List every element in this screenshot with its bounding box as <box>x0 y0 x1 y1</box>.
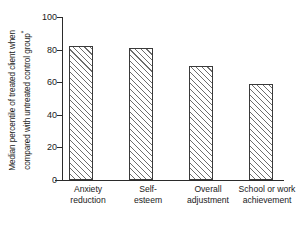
bar-overall-adjustment <box>189 66 213 180</box>
x-axis-tick-labels: Anxiety reduction Self- esteem Overall a… <box>55 184 301 224</box>
x-tick-label-school-or-work-achievement-line-1: School or work <box>233 184 301 195</box>
x-tick-label-anxiety-reduction-line-2: reduction <box>55 195 121 206</box>
x-tick-label-school-or-work-achievement-line-2: achievement <box>233 195 301 206</box>
bar-anxiety-reduction <box>69 46 93 180</box>
bar-self-esteem <box>129 48 153 180</box>
x-tick-label-self-esteem-line-1: Self- <box>115 184 181 195</box>
x-tick-label-self-esteem: Self- esteem <box>115 184 181 206</box>
y-tick-label-100: 100 <box>42 13 57 22</box>
y-tick-mark-100 <box>57 17 62 18</box>
y-axis-label-line-2-text: compared with untreated control group <box>22 33 31 169</box>
y-tick-mark-40 <box>57 115 62 116</box>
y-axis-tick-labels: 0 20 40 60 80 100 <box>32 17 57 180</box>
y-axis-label-footnote-marker: * <box>19 31 26 33</box>
y-tick-label-40: 40 <box>47 110 57 119</box>
bar-series <box>63 17 284 180</box>
y-tick-label-20: 20 <box>47 143 57 152</box>
y-tick-mark-60 <box>57 82 62 83</box>
y-tick-mark-80 <box>57 50 62 51</box>
y-axis-label-line-2: compared with untreated control group* <box>18 30 32 171</box>
x-tick-label-anxiety-reduction-line-1: Anxiety <box>55 184 121 195</box>
bar-school-or-work-achievement <box>249 84 273 180</box>
y-tick-label-60: 60 <box>47 78 57 87</box>
y-tick-label-80: 80 <box>47 45 57 54</box>
x-tick-label-anxiety-reduction: Anxiety reduction <box>55 184 121 206</box>
y-axis-label-line-1: Median percentile of treated client when <box>8 30 17 171</box>
x-tick-label-self-esteem-line-2: esteem <box>115 195 181 206</box>
x-tick-label-school-or-work-achievement: School or work achievement <box>233 184 301 206</box>
plot-area <box>62 17 284 180</box>
x-axis-line <box>55 180 284 181</box>
y-tick-mark-0 <box>57 180 62 181</box>
y-tick-mark-20 <box>57 147 62 148</box>
bar-chart-figure: Median percentile of treated client when… <box>0 0 301 240</box>
